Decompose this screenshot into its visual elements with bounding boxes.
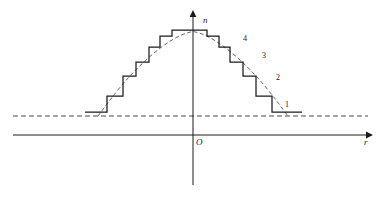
step-label-4: 4 xyxy=(243,35,247,43)
x-axis-label: r xyxy=(364,138,368,147)
origin-label: O xyxy=(196,138,203,147)
y-axis-arrowhead xyxy=(190,10,197,17)
plot-svg xyxy=(0,0,381,199)
step-label-1: 1 xyxy=(285,101,289,109)
figure-root: n r O 1 2 3 4 xyxy=(0,0,381,199)
y-axis-label: n xyxy=(203,16,208,25)
step-label-3: 3 xyxy=(262,52,266,60)
step-label-2: 2 xyxy=(276,74,280,82)
